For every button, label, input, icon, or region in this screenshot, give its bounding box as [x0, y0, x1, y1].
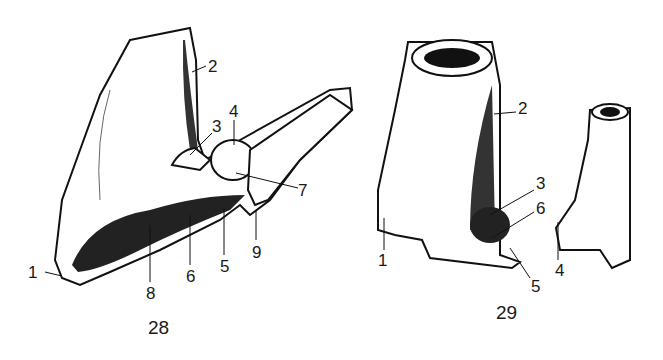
label-28-6: 6 — [186, 268, 195, 285]
label-29-3: 3 — [536, 175, 545, 192]
bone-drawing-28 — [0, 0, 663, 360]
figure-caption-28: 28 — [148, 318, 169, 337]
label-28-8: 8 — [146, 285, 155, 302]
label-28-5: 5 — [220, 258, 229, 275]
label-29-2: 2 — [518, 100, 527, 117]
label-29-4: 4 — [555, 262, 564, 279]
label-28-2: 2 — [208, 58, 217, 75]
label-28-4: 4 — [229, 103, 238, 120]
label-28-1: 1 — [28, 264, 37, 281]
label-28-9: 9 — [252, 244, 261, 261]
label-29-5: 5 — [531, 278, 540, 295]
label-28-7: 7 — [298, 182, 307, 199]
label-29-1: 1 — [378, 252, 387, 269]
figure-caption-29: 29 — [496, 303, 517, 322]
label-29-6: 6 — [536, 200, 545, 217]
label-28-3: 3 — [212, 118, 221, 135]
